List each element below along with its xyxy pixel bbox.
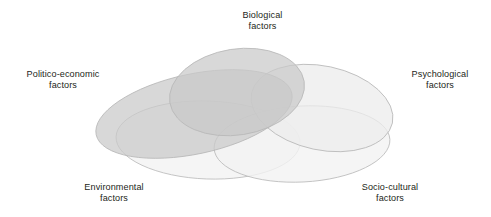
label-sociocultural-line1: Socio-cultural bbox=[335, 182, 445, 193]
venn-diagram-figure: Biological factors Politico-economic fac… bbox=[0, 0, 491, 217]
label-biological: Biological factors bbox=[205, 10, 320, 33]
label-politico-economic-line2: factors bbox=[2, 80, 124, 91]
label-psychological: Psychological factors bbox=[390, 69, 490, 92]
label-psychological-line2: factors bbox=[390, 80, 490, 91]
label-biological-line1: Biological bbox=[205, 10, 320, 21]
label-sociocultural: Socio-cultural factors bbox=[335, 182, 445, 205]
label-environmental-line2: factors bbox=[54, 193, 174, 204]
label-environmental: Environmental factors bbox=[54, 182, 174, 205]
label-politico-economic-line1: Politico-economic bbox=[2, 69, 124, 80]
label-politico-economic: Politico-economic factors bbox=[2, 69, 124, 92]
label-psychological-line1: Psychological bbox=[390, 69, 490, 80]
label-environmental-line1: Environmental bbox=[54, 182, 174, 193]
label-sociocultural-line2: factors bbox=[335, 193, 445, 204]
label-biological-line2: factors bbox=[205, 21, 320, 32]
